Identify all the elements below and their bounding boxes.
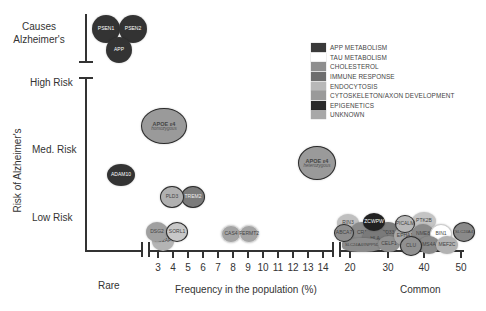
- tick-label-50: 50: [455, 262, 466, 273]
- y-axis: [85, 77, 87, 251]
- tick-20: [349, 251, 351, 258]
- tick-6: [202, 251, 204, 258]
- tick-9: [247, 251, 249, 258]
- bubble-app: APP: [106, 37, 132, 63]
- tick-50: [460, 251, 462, 258]
- y-axis-causes-cap: [79, 61, 93, 63]
- tick-label-5: 5: [185, 262, 191, 273]
- bubble-label: DSG2: [150, 229, 164, 235]
- bubble-apoe-homozygous: APOE ε4 homozygous: [141, 108, 187, 144]
- legend-swatch: [311, 72, 326, 81]
- y-label-low-risk: Low Risk: [32, 212, 73, 223]
- bubble-label: PSEN1: [98, 26, 114, 32]
- legend-label: APP METABOLISM: [330, 44, 387, 51]
- x-axis-break1-a: [141, 242, 143, 257]
- bubble-sublabel: homozygous: [151, 127, 177, 132]
- legend-item-unknown: UNKNOWN: [311, 110, 454, 120]
- x-axis-title: Frequency in the population (%): [175, 284, 317, 295]
- legend-item-cholesterol: CHOLESTEROL: [311, 62, 454, 72]
- legend-label: ENDOCYTOSIS: [330, 83, 378, 90]
- bubble-label: FERMT2: [239, 231, 259, 237]
- y-label-causes-line2: Alzheimer's: [4, 33, 74, 46]
- y-label-causes-line1: Causes: [4, 20, 74, 33]
- tick-label-12: 12: [287, 262, 298, 273]
- bubble-label: TREM2: [185, 194, 202, 200]
- tick-13: [307, 251, 309, 258]
- bubble-label: PLD3: [166, 194, 179, 200]
- bubble-label: ABCA7: [336, 230, 352, 236]
- bubble-adam10: ADAM10: [107, 164, 135, 186]
- bubble-label: ADAM10: [111, 172, 131, 178]
- bubble-sorl1: SORL1: [166, 222, 188, 242]
- x-axis-rare: [85, 250, 141, 252]
- tick-label-9: 9: [245, 262, 251, 273]
- tick-label-13: 13: [302, 262, 313, 273]
- bubble-label: SLC24A4/INPP5D: [345, 243, 379, 248]
- tick-10: [262, 251, 264, 258]
- legend-item-endocytosis: ENDOCYTOSIS: [311, 81, 454, 91]
- bubble-label: APP: [114, 47, 124, 53]
- bubble-apoe-heterozygous: APOE ε4 heterozygous: [298, 146, 336, 180]
- bubble-label: ZCWPW: [364, 219, 383, 225]
- legend-swatch: [311, 53, 326, 62]
- bubble-picalm: PICALM: [395, 215, 415, 233]
- tick-30: [387, 251, 389, 258]
- legend-label: TAU METABOLISM: [330, 54, 387, 61]
- tick-label-20: 20: [344, 262, 355, 273]
- tick-14: [322, 251, 324, 258]
- y-axis-title: Risk of Alzheimer's: [12, 116, 23, 226]
- bubble-cass4: CAS4: [221, 225, 241, 243]
- tick-label-30: 30: [382, 262, 393, 273]
- legend-item-app-metabolism: APP METABOLISM: [311, 43, 454, 53]
- tick-4: [172, 251, 174, 258]
- tick-label-10: 10: [257, 262, 268, 273]
- tick-label-6: 6: [200, 262, 206, 273]
- bubble-label: CLU: [406, 243, 416, 249]
- tick-8: [232, 251, 234, 258]
- bubble-label: PICALM: [396, 221, 415, 227]
- legend-item-epigenetics: EPIGENETICS: [311, 101, 454, 111]
- bubble-label: MEF2C: [439, 242, 456, 248]
- x-label-rare: Rare: [98, 280, 120, 291]
- tick-11: [277, 251, 279, 258]
- tick-3: [157, 251, 159, 258]
- bubble-label: PSEN2: [125, 26, 141, 32]
- bubble-dsg2: DSG2: [146, 222, 168, 242]
- legend-item-cytoskeleton: CYTOSKELETON/AXON DEVELOPMENT: [311, 91, 454, 101]
- legend-label: EPIGENETICS: [330, 102, 374, 109]
- bubble-mef2c: MEF2C: [436, 236, 458, 254]
- bubble-zcwpw1: ZCWPW: [363, 213, 385, 231]
- y-label-med-risk: Med. Risk: [32, 144, 76, 155]
- tick-label-4: 4: [170, 262, 176, 273]
- bubble-slc24a4-right: SLC24A4: [453, 222, 475, 242]
- legend: APP METABOLISM TAU METABOLISM CHOLESTERO…: [311, 43, 454, 120]
- tick-5: [187, 251, 189, 258]
- legend-label: CHOLESTEROL: [330, 63, 379, 70]
- bubble-label: MS4A: [422, 242, 436, 248]
- legend-item-tau-metabolism: TAU METABOLISM: [311, 53, 454, 63]
- bubble-pld3: PLD3: [160, 186, 184, 208]
- legend-label: IMMUNE RESPONSE: [330, 73, 395, 80]
- bubble-clu: CLU: [400, 236, 422, 256]
- bubble-label: CAS4: [224, 231, 237, 237]
- bubble-sublabel: heterozygous: [303, 164, 330, 169]
- tick-label-8: 8: [230, 262, 236, 273]
- bubble-label: CELF1: [381, 241, 397, 247]
- tick-12: [292, 251, 294, 258]
- y-label-high-risk: High Risk: [30, 77, 73, 88]
- legend-swatch: [311, 43, 326, 52]
- x-label-common: Common: [400, 284, 441, 295]
- y-label-causes: Causes Alzheimer's: [4, 20, 74, 46]
- tick-label-11: 11: [273, 262, 283, 273]
- bubble-label: PTK2B: [416, 218, 432, 224]
- bubble-fermt2: FERMT2: [239, 225, 259, 243]
- tick-label-3: 3: [155, 262, 161, 273]
- legend-swatch: [311, 101, 326, 110]
- x-axis-break2-a: [332, 242, 334, 257]
- legend-item-immune-response: IMMUNE RESPONSE: [311, 72, 454, 82]
- legend-label: UNKNOWN: [330, 111, 364, 118]
- legend-label: CYTOSKELETON/AXON DEVELOPMENT: [330, 92, 454, 99]
- bubble-label: SORL1: [169, 229, 185, 235]
- x-axis-main: [148, 250, 332, 252]
- tick-7: [217, 251, 219, 258]
